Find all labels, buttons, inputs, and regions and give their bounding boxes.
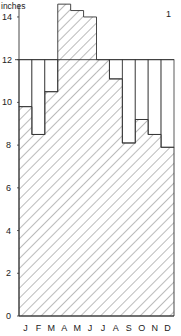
x-tick-label: M (48, 323, 56, 333)
data-bar (19, 107, 32, 316)
data-bar (148, 134, 161, 316)
x-tick-label: J (101, 323, 106, 333)
y-tick-label: 8 (6, 140, 11, 150)
data-bar (135, 119, 148, 316)
data-bar (71, 11, 84, 316)
y-tick-label: 4 (6, 226, 11, 236)
x-tick-label: J (23, 323, 28, 333)
data-bar (122, 143, 135, 316)
data-bar (84, 17, 97, 316)
x-tick-label: A (113, 323, 119, 333)
reference-bar (122, 60, 135, 143)
chart: 02468101214 JFMAMJJASOND inches 1 (0, 0, 181, 336)
panel-label: 1 (166, 9, 171, 19)
data-bar (58, 4, 71, 316)
reference-bar (135, 60, 148, 120)
reference-bar (19, 60, 32, 107)
y-tick-label: 2 (6, 268, 11, 278)
x-tick-label: A (61, 323, 67, 333)
data-bar (161, 147, 174, 316)
reference-bar (45, 60, 58, 92)
y-tick-label: 10 (2, 97, 12, 107)
reference-bar (148, 60, 161, 135)
data-bar (109, 79, 122, 316)
x-axis-labels: JFMAMJJASOND (23, 323, 171, 333)
x-tick-label: S (126, 323, 132, 333)
y-tick-label: 0 (6, 311, 11, 321)
reference-bar (109, 60, 122, 79)
x-tick-label: J (88, 323, 93, 333)
reference-bar (161, 60, 174, 148)
data-bar (97, 60, 110, 316)
data-bar (45, 92, 58, 316)
x-tick-label: N (151, 323, 158, 333)
y-tick-label: 14 (2, 12, 12, 22)
bars (15, 4, 174, 316)
reference-bar (32, 60, 45, 135)
x-tick-label: O (138, 323, 145, 333)
x-tick-label: D (164, 323, 171, 333)
y-axis-unit-label: inches (1, 1, 26, 11)
y-tick-label: 6 (6, 183, 11, 193)
x-tick-label: F (36, 323, 42, 333)
y-tick-label: 12 (2, 55, 12, 65)
data-bar (32, 134, 45, 316)
x-tick-label: M (73, 323, 81, 333)
